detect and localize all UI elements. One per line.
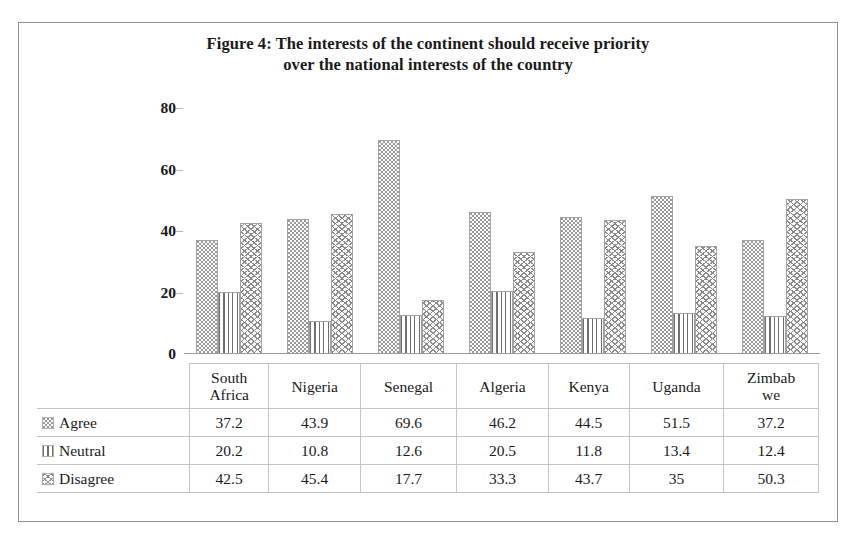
plot-area: 020406080 <box>184 108 820 354</box>
legend-label: Disagree <box>59 470 114 488</box>
table-column-header-line: Algeria <box>459 378 546 395</box>
table-cell: 50.3 <box>724 465 819 493</box>
table-column-header-line: Zimbab <box>726 369 816 386</box>
table-cell: 35 <box>629 465 724 493</box>
bar-neutral-algeria <box>491 291 513 354</box>
vertical-lines-swatch <box>42 445 54 457</box>
chart-title-line-1: Figure 4: The interests of the continent… <box>19 33 837 54</box>
table-column-header: Algeria <box>457 364 549 409</box>
bar-neutral-uganda <box>673 313 695 354</box>
y-axis-tick-label: 60 <box>136 161 176 179</box>
table-cell: 44.5 <box>548 409 629 437</box>
y-axis-tick-mark <box>176 231 183 232</box>
bar-neutral-senegal <box>400 315 422 354</box>
bar-group-kenya <box>547 108 638 354</box>
y-axis-tick-mark <box>176 170 183 171</box>
bar-disagree-kenya <box>604 220 626 354</box>
legend-item-neutral: Neutral <box>37 437 190 465</box>
bar-group-nigeria <box>275 108 366 354</box>
bar-neutral-kenya <box>582 318 604 354</box>
table-cell: 10.8 <box>269 437 361 465</box>
y-axis-tick-label: 40 <box>136 222 176 240</box>
zigzag-crosshatch-swatch <box>42 473 54 485</box>
bar-agree-zimbabwe <box>742 240 764 354</box>
table-column-header-line: we <box>726 386 816 403</box>
table-column-header-line: Uganda <box>632 378 722 395</box>
bars-layer <box>184 108 820 354</box>
table-body: Agree37.243.969.646.244.551.537.2Neutral… <box>37 409 819 493</box>
table-column-header: Kenya <box>548 364 629 409</box>
table-cell: 20.5 <box>457 437 549 465</box>
legend-label: Agree <box>59 414 97 432</box>
table-column-header: SouthAfrica <box>190 364 269 409</box>
table-header-row: SouthAfricaNigeriaSenegalAlgeriaKenyaUga… <box>37 364 819 409</box>
table-column-header-line: Africa <box>192 386 266 403</box>
table-cell: 11.8 <box>548 437 629 465</box>
chart-title: Figure 4: The interests of the continent… <box>19 33 837 75</box>
data-table: SouthAfricaNigeriaSenegalAlgeriaKenyaUga… <box>37 363 819 493</box>
bar-neutral-nigeria <box>309 321 331 354</box>
table-cell: 45.4 <box>269 465 361 493</box>
y-axis-tick-label: 80 <box>136 99 176 117</box>
table-cell: 12.4 <box>724 437 819 465</box>
table-column-header-line: Nigeria <box>271 378 358 395</box>
table-column-header: Nigeria <box>269 364 361 409</box>
dotted-stipple-swatch <box>42 417 54 429</box>
bar-agree-senegal <box>378 140 400 354</box>
bar-group-algeria <box>457 108 548 354</box>
bar-group-zimbabwe <box>729 108 820 354</box>
table-row: Agree37.243.969.646.244.551.537.2 <box>37 409 819 437</box>
table-cell: 17.7 <box>360 465 456 493</box>
table-cell: 37.2 <box>190 409 269 437</box>
bar-agree-algeria <box>469 212 491 354</box>
table-cell: 51.5 <box>629 409 724 437</box>
table-column-header-line: Kenya <box>551 378 627 395</box>
legend-label: Neutral <box>59 442 105 460</box>
bar-agree-south-africa <box>196 240 218 354</box>
table-cell: 20.2 <box>190 437 269 465</box>
bar-agree-uganda <box>651 196 673 354</box>
bar-disagree-algeria <box>513 252 535 354</box>
bar-disagree-nigeria <box>331 214 353 354</box>
chart-title-line-2: over the national interests of the count… <box>19 54 837 75</box>
table-cell: 69.6 <box>360 409 456 437</box>
bar-neutral-south-africa <box>218 292 240 354</box>
bar-neutral-zimbabwe <box>764 316 786 354</box>
y-axis-tick-mark <box>176 108 183 109</box>
bar-agree-nigeria <box>287 219 309 354</box>
table-cell: 42.5 <box>190 465 269 493</box>
table-column-header: Uganda <box>629 364 724 409</box>
y-axis-tick-mark <box>176 293 183 294</box>
table-column-header-line: Senegal <box>363 378 454 395</box>
x-axis-baseline <box>184 353 820 354</box>
table-column-header: Senegal <box>360 364 456 409</box>
table-cell: 33.3 <box>457 465 549 493</box>
bar-disagree-zimbabwe <box>786 199 808 354</box>
table-cell: 12.6 <box>360 437 456 465</box>
figure-frame: Figure 4: The interests of the continent… <box>18 22 838 522</box>
y-axis-tick-label: 0 <box>136 345 176 363</box>
table-cell: 43.7 <box>548 465 629 493</box>
table-cell: 13.4 <box>629 437 724 465</box>
table-cell: 43.9 <box>269 409 361 437</box>
table-row: Disagree42.545.417.733.343.73550.3 <box>37 465 819 493</box>
table-column-header: Zimbabwe <box>724 364 819 409</box>
table-column-header-line: South <box>192 369 266 386</box>
legend-item-agree: Agree <box>37 409 190 437</box>
bar-agree-kenya <box>560 217 582 354</box>
legend-item-disagree: Disagree <box>37 465 190 493</box>
bar-group-south-africa <box>184 108 275 354</box>
bar-group-senegal <box>366 108 457 354</box>
bar-disagree-uganda <box>695 246 717 354</box>
table-cell: 37.2 <box>724 409 819 437</box>
table-cell: 46.2 <box>457 409 549 437</box>
bar-group-uganda <box>638 108 729 354</box>
table-corner-cell <box>37 364 190 409</box>
table-row: Neutral20.210.812.620.511.813.412.4 <box>37 437 819 465</box>
bar-disagree-south-africa <box>240 223 262 354</box>
y-axis-tick-label: 20 <box>136 284 176 302</box>
y-axis: 020406080 <box>124 108 176 354</box>
bar-disagree-senegal <box>422 300 444 354</box>
